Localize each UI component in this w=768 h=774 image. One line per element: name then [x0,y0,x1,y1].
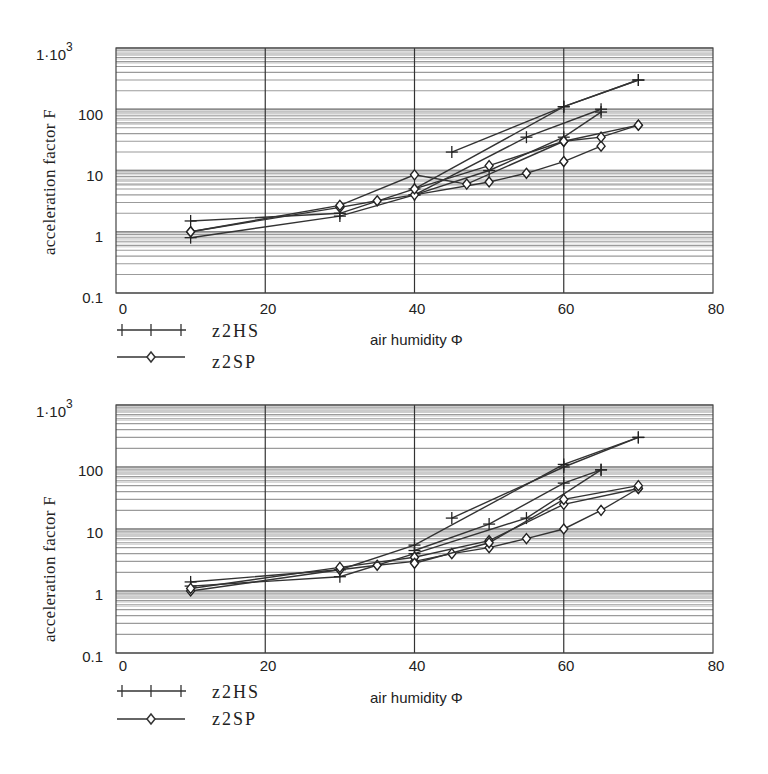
y-tick-1000: 1·103 [36,40,73,63]
x-tick-0: 0 [119,300,127,317]
y-tick-1: 1 [95,228,103,245]
legend-item-z2hs: z2HS [117,682,260,702]
chart-top: acceleration factor F 1·103 100 10 1 0.1… [0,0,768,387]
diamond-marker-icon [147,352,155,362]
chart-bottom: acceleration factor F 1·103 100 10 1 0.1… [0,387,768,774]
legend: z2HS z2SP [117,321,260,372]
legend-label-z2hs: z2HS [212,682,260,702]
x-tick-60: 60 [558,657,575,674]
y-tick-1000: 1·103 [36,397,73,420]
x-tick-20: 20 [260,657,277,674]
y-axis-label: acceleration factor F [40,496,59,642]
legend-item-z2hs: z2HS [117,321,260,341]
legend-item-z2sp: z2SP [117,352,257,372]
legend-item-z2sp: z2SP [117,709,257,729]
chart-top-svg: acceleration factor F 1·103 100 10 1 0.1… [0,0,768,387]
diamond-marker-icon [147,714,155,724]
x-axis-label: air humidity Φ [370,689,463,706]
legend-label-z2hs: z2HS [212,321,260,341]
legend-label-z2sp: z2SP [212,709,257,729]
x-tick-0: 0 [119,657,127,674]
chart-bottom-svg: acceleration factor F 1·103 100 10 1 0.1… [0,387,768,774]
y-tick-100: 100 [78,462,103,479]
x-tick-80: 80 [708,300,725,317]
y-tick-0.1: 0.1 [82,289,103,306]
y-tick-10: 10 [86,167,103,184]
x-axis-label: air humidity Φ [370,331,463,348]
y-tick-1: 1 [95,586,103,603]
x-tick-20: 20 [260,300,277,317]
y-tick-100: 100 [78,106,103,123]
legend-label-z2sp: z2SP [212,352,257,372]
x-tick-60: 60 [558,300,575,317]
legend: z2HS z2SP [117,682,260,729]
y-tick-10: 10 [86,524,103,541]
x-tick-40: 40 [409,300,426,317]
y-tick-0.1: 0.1 [82,648,103,665]
y-axis-label: acceleration factor F [40,109,59,255]
x-tick-40: 40 [409,657,426,674]
x-tick-80: 80 [708,657,725,674]
